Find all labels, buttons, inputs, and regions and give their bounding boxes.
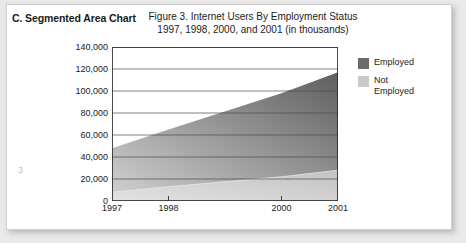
chart-legend: EmployedNot Employed (358, 57, 458, 102)
y-axis-tick-label: 120,000 (75, 64, 108, 74)
y-axis-tick-label: 40,000 (80, 152, 108, 162)
y-axis-tick-labels: 140,000120,000100,00080,00060,00040,0002… (52, 41, 108, 207)
y-axis-tick-label: 140,000 (75, 42, 108, 52)
legend-item-label: Not Employed (374, 75, 414, 96)
y-axis-tick-label: 60,000 (80, 130, 108, 140)
y-axis-tick-label: 100,000 (75, 86, 108, 96)
chart-plot-area: 140,000120,000100,00080,00060,00040,0002… (0, 0, 466, 243)
x-axis-tick-labels: 1997199820002001 (0, 203, 466, 217)
legend-item[interactable]: Employed (358, 57, 458, 69)
segmented-area-chart (112, 47, 338, 201)
y-axis-tick-label: 80,000 (80, 108, 108, 118)
x-axis-tick-label: 1997 (102, 203, 122, 213)
y-axis-tick-label: 20,000 (80, 174, 108, 184)
legend-swatch-icon (358, 58, 369, 69)
x-axis-tick-label: 2000 (271, 203, 291, 213)
x-axis-tick-label: 2001 (328, 203, 348, 213)
legend-item[interactable]: Not Employed (358, 75, 458, 96)
legend-item-label: Employed (374, 57, 414, 68)
legend-swatch-icon (358, 76, 369, 87)
x-axis-tick-label: 1998 (158, 203, 178, 213)
